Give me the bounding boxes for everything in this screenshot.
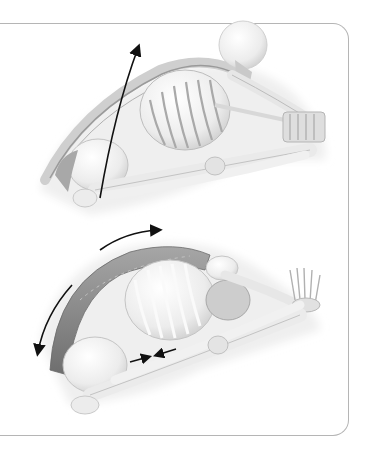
stretch-illustration (0, 0, 372, 457)
bottom-skeleton (40, 243, 320, 414)
top-skeleton (40, 21, 326, 215)
